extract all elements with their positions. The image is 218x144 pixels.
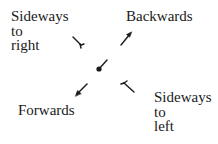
label-line: Sideways [154, 90, 212, 105]
label-forwards: Forwards [18, 103, 75, 118]
sideways-right-symbol-icon [73, 37, 84, 48]
label-line: right [11, 38, 69, 53]
label-sideways-to-left: Sideways to left [154, 90, 212, 134]
label-line: Forwards [18, 103, 75, 118]
sideways-left-symbol-icon [121, 81, 134, 92]
label-line: Backwards [126, 9, 193, 24]
label-backwards: Backwards [126, 9, 193, 24]
label-line: to [154, 105, 212, 120]
label-line: to [11, 24, 69, 39]
label-line: Sideways [11, 9, 69, 24]
backwards-arrow-icon [121, 32, 132, 45]
label-sideways-to-right: Sideways to right [11, 9, 69, 53]
label-line: left [154, 119, 212, 134]
forwards-arrow-icon [76, 84, 88, 96]
center-ball-icon [96, 60, 107, 72]
